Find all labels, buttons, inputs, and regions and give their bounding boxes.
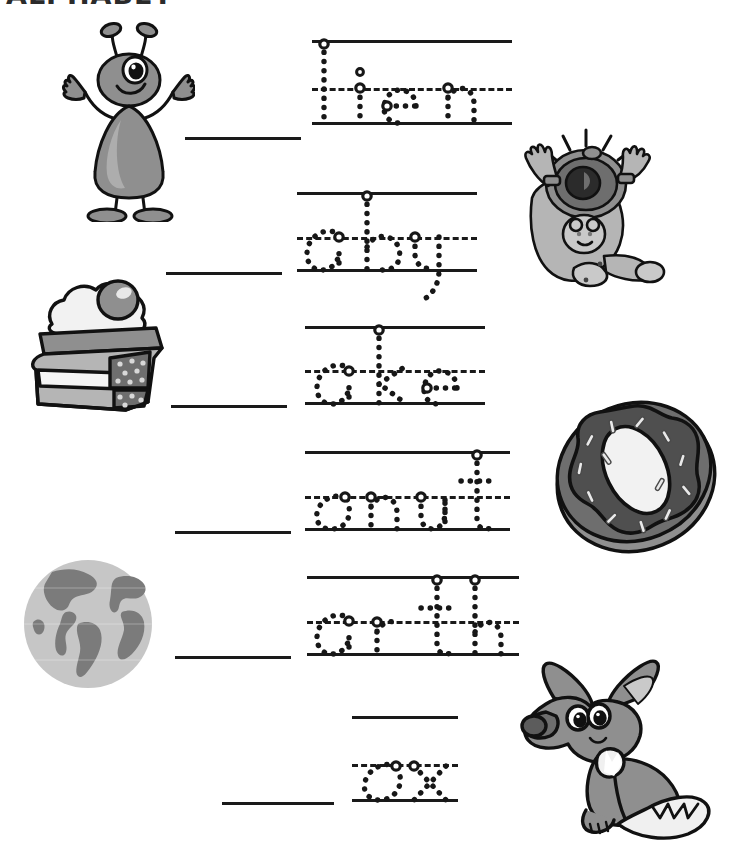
answer-blank-donut[interactable]: [175, 531, 291, 534]
worksheet-page: ALPHABET: [0, 0, 734, 847]
baby-illustration: [508, 128, 668, 290]
tracing-guide-earth[interactable]: [307, 576, 519, 656]
page-title: ALPHABET: [0, 0, 330, 9]
answer-blank-fox[interactable]: [222, 802, 334, 805]
trace-letters-ox: [352, 716, 458, 802]
trace-letters-arth: [307, 576, 519, 656]
trace-letters-aby: [297, 192, 477, 272]
trace-letters-lien: [312, 40, 512, 125]
tracing-guide-cake[interactable]: [305, 326, 485, 405]
tracing-guide-donut[interactable]: [305, 451, 510, 531]
fox-illustration: [502, 652, 734, 847]
answer-blank-alien[interactable]: [185, 137, 301, 140]
tracing-guide-baby[interactable]: [297, 192, 477, 272]
page-title-text: ALPHABET: [6, 0, 173, 9]
donut-illustration: [548, 392, 723, 557]
tracing-guide-alien[interactable]: [312, 40, 512, 125]
trace-letters-onut: [305, 451, 510, 531]
answer-blank-earth[interactable]: [175, 656, 291, 659]
tracing-guide-fox[interactable]: [352, 716, 458, 802]
answer-blank-cake[interactable]: [171, 405, 287, 408]
trace-letters-ake: [305, 326, 485, 405]
earth-illustration: [22, 558, 154, 690]
cake-illustration: [22, 262, 174, 412]
alien-illustration: [55, 22, 195, 222]
answer-blank-baby[interactable]: [166, 272, 282, 275]
